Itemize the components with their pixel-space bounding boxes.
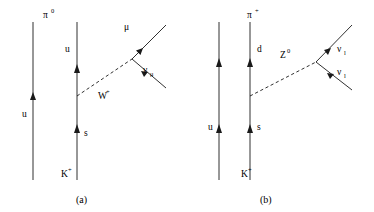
diagram-a-s-arrow xyxy=(74,124,80,133)
diagram-b-neutrino-1-label: ν xyxy=(337,44,342,54)
diagram-a-muon-line xyxy=(132,25,166,59)
diagram-a-neutrino-line xyxy=(132,59,166,88)
diagram-a-u-arrow xyxy=(74,64,80,73)
diagram-b-neutrino-2-arrow xyxy=(327,73,334,79)
diagram-b-pi-superscript: + xyxy=(255,7,259,14)
diagram-b-boson-superscript: 0 xyxy=(287,47,290,54)
feynman-figure: π 0 u u s K + W + μ ν μ (a) xyxy=(0,0,374,212)
diagram-a-pi-superscript: 0 xyxy=(51,7,54,14)
diagram-a-spectator-quark-label: u xyxy=(22,109,27,119)
diagram-b-final-quark-label: d xyxy=(257,44,262,54)
diagram-a-caption: (a) xyxy=(76,194,87,206)
diagram-b-spectator-quark-label: u xyxy=(208,122,213,132)
diagram-b-z-boson-line xyxy=(250,62,316,96)
diagram-a-neutrino-subscript: μ xyxy=(150,70,154,77)
diagram-a-kaon-label: K xyxy=(61,169,68,179)
diagram-a-muon-label: μ xyxy=(124,22,129,32)
diagram-b-neutrino-1-subscript: l xyxy=(344,49,346,56)
diagram-a-group: π 0 u u s K + W + μ ν μ (a) xyxy=(22,7,166,206)
feynman-diagram-svg: π 0 u u s K + W + μ ν μ (a) xyxy=(0,0,374,212)
diagram-a-boson-superscript: + xyxy=(106,88,110,95)
diagram-b-kaon-superscript: + xyxy=(248,166,252,173)
diagram-b-neutrino-2-line xyxy=(316,62,352,90)
diagram-a-kaon-superscript: + xyxy=(68,166,72,173)
diagram-b-group: π + d u s K + Z 0 ν l ν l (b) xyxy=(208,7,352,206)
diagram-b-s-arrow xyxy=(247,124,253,133)
diagram-a-initial-quark-label: s xyxy=(84,128,88,138)
diagram-b-initial-quark-label: s xyxy=(257,122,261,132)
diagram-a-final-quark-label: u xyxy=(65,44,70,54)
diagram-b-kaon-label: K xyxy=(241,169,248,179)
diagram-b-spectator-arrow-upper xyxy=(216,58,222,67)
diagram-b-caption: (b) xyxy=(260,194,272,206)
diagram-a-spectator-arrow xyxy=(30,92,36,100)
diagram-b-boson-label: Z xyxy=(280,50,286,60)
diagram-b-neutrino-1-line xyxy=(316,25,352,62)
diagram-b-spectator-arrow-lower xyxy=(216,124,222,133)
diagram-b-neutrino-2-label: ν xyxy=(337,67,342,77)
diagram-b-pi-label: π xyxy=(247,10,252,20)
diagram-b-neutrino-1-arrow xyxy=(324,48,331,55)
diagram-b-neutrino-2-subscript: l xyxy=(344,72,346,79)
diagram-a-neutrino-label: ν xyxy=(143,65,148,75)
diagram-a-pi-label: π xyxy=(43,10,48,20)
diagram-b-d-arrow xyxy=(247,58,253,67)
